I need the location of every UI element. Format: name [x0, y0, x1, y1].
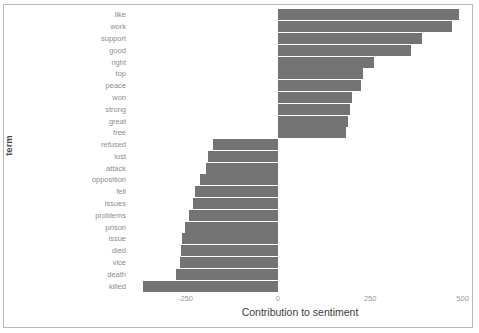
bar-row [130, 210, 470, 221]
bar-row [130, 80, 470, 91]
bar-row [130, 116, 470, 127]
bar-support [278, 33, 422, 44]
y-tick-won: won [6, 92, 126, 103]
bar-right [278, 57, 374, 68]
y-tick-fell: fell [6, 186, 126, 197]
y-tick-peace: peace [6, 80, 126, 91]
x-axis-tick-labels: -2500250500 [130, 294, 470, 306]
y-tick-problems: problems [6, 210, 126, 221]
y-tick-issues: issues [6, 198, 126, 209]
y-tick-refused: refused [6, 139, 126, 150]
y-tick-great: great [6, 116, 126, 127]
bar-row [130, 127, 470, 138]
bar-row [130, 151, 470, 162]
bar-attack [206, 163, 278, 174]
y-tick-prison: prison [6, 222, 126, 233]
y-tick-good: good [6, 45, 126, 56]
y-axis-tick-labels: likeworksupportgoodrighttoppeacewonstron… [0, 9, 126, 292]
y-tick-lost: lost [6, 151, 126, 162]
x-tick-250: 250 [364, 294, 377, 303]
bar-row [130, 245, 470, 256]
bar-row [130, 257, 470, 268]
bar-died [181, 245, 278, 256]
y-tick-right: right [6, 57, 126, 68]
bar-great [278, 116, 348, 127]
bar-row [130, 163, 470, 174]
bar-opposition [200, 174, 278, 185]
bar-vice [180, 257, 278, 268]
bar-row [130, 186, 470, 197]
bar-row [130, 45, 470, 56]
bar-row [130, 68, 470, 79]
y-tick-top: top [6, 68, 126, 79]
y-tick-vice: vice [6, 257, 126, 268]
bar-lost [208, 151, 278, 162]
y-tick-strong: strong [6, 104, 126, 115]
bar-row [130, 57, 470, 68]
bar-strong [278, 104, 350, 115]
bar-good [278, 45, 411, 56]
bar-row [130, 139, 470, 150]
bar-death [176, 269, 278, 280]
y-tick-issue: issue [6, 233, 126, 244]
y-tick-opposition: opposition [6, 174, 126, 185]
bar-issues [193, 198, 278, 209]
bar-row [130, 269, 470, 280]
bar-row [130, 174, 470, 185]
y-tick-free: free [6, 127, 126, 138]
y-tick-support: support [6, 33, 126, 44]
sentiment-contribution-chart: term likeworksupportgoodrighttoppeacewon… [0, 0, 479, 333]
plot-panel [130, 9, 470, 292]
bar-refused [213, 139, 278, 150]
x-tick--250: -250 [178, 294, 193, 303]
bar-row [130, 222, 470, 233]
bar-fell [195, 186, 278, 197]
bar-killed [143, 281, 278, 292]
bar-issue [182, 233, 278, 244]
bar-problems [189, 210, 278, 221]
bar-row [130, 92, 470, 103]
bar-work [278, 21, 452, 32]
y-tick-killed: killed [6, 281, 126, 292]
bar-free [278, 127, 346, 138]
bar-row [130, 198, 470, 209]
bar-row [130, 281, 470, 292]
y-tick-died: died [6, 245, 126, 256]
x-tick-0: 0 [276, 294, 280, 303]
x-tick-500: 500 [456, 294, 469, 303]
y-tick-attack: attack [6, 163, 126, 174]
bar-peace [278, 80, 361, 91]
bar-row [130, 33, 470, 44]
bar-top [278, 68, 363, 79]
bar-like [278, 9, 459, 20]
x-axis-title: Contribution to sentiment [130, 306, 470, 318]
y-tick-death: death [6, 269, 126, 280]
bar-prison [185, 222, 277, 233]
bar-row [130, 21, 470, 32]
bar-row [130, 233, 470, 244]
bar-row [130, 9, 470, 20]
y-tick-work: work [6, 21, 126, 32]
bar-row [130, 104, 470, 115]
y-tick-like: like [6, 9, 126, 20]
bar-won [278, 92, 352, 103]
